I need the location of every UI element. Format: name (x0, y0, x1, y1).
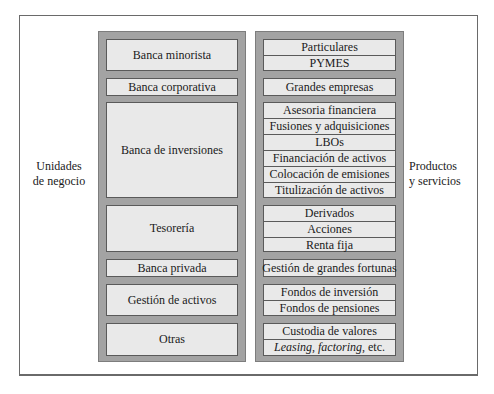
product-item: Fondos de pensiones (264, 300, 395, 316)
product-item: Gestión de grandes fortunas (264, 260, 395, 276)
products-column: Particulares PYMES Grandes empresas Ases… (255, 31, 404, 362)
product-item: Renta fija (264, 237, 395, 253)
product-item: Acciones (264, 221, 395, 237)
product-item: Custodia de valores (264, 324, 395, 339)
product-group-retail: Particulares PYMES (263, 39, 396, 71)
product-item: Colocación de emisiones (264, 166, 395, 182)
business-units-label: Unidades de negocio (20, 159, 98, 189)
unit-tesoreria: Tesorería (106, 205, 238, 252)
product-group-treasury: Derivados Acciones Renta fija (263, 205, 396, 252)
label-line: y servicios (409, 174, 479, 189)
etc-text: etc. (365, 340, 385, 355)
label-line: Unidades (20, 159, 98, 174)
product-group-asset-mgmt: Fondos de inversión Fondos de pensiones (263, 284, 396, 316)
product-item: Derivados (264, 206, 395, 221)
diagram-frame (19, 15, 478, 376)
unit-banca-minorista: Banca minorista (106, 39, 238, 71)
products-services-label: Productos y servicios (409, 159, 479, 189)
product-group-corporate: Grandes empresas (263, 78, 396, 96)
product-group-investment: Asesoria financiera Fusiones y adquisici… (263, 102, 396, 198)
product-item: Fondos de inversión (264, 285, 395, 300)
label-line: Productos (409, 159, 479, 174)
label-line: de negocio (20, 174, 98, 189)
product-item: Financiación de activos (264, 150, 395, 166)
product-group-other: Custodia de valores Leasing, factoring, … (263, 323, 396, 356)
product-item-leasing: Leasing, factoring, etc. (264, 339, 395, 355)
product-item: Grandes empresas (264, 79, 395, 95)
product-item: LBOs (264, 134, 395, 150)
product-item: Fusiones y adquisiciones (264, 118, 395, 134)
unit-banca-privada: Banca privada (106, 259, 238, 277)
business-units-column: Banca minorista Banca corporativa Banca … (98, 31, 246, 362)
unit-banca-inversiones: Banca de inversiones (106, 102, 238, 198)
product-item: Particulares (264, 40, 395, 55)
product-item: Asesoria financiera (264, 103, 395, 118)
unit-banca-corporativa: Banca corporativa (106, 78, 238, 96)
leasing-factoring-text: Leasing, factoring, (274, 340, 365, 355)
product-group-private: Gestión de grandes fortunas (263, 259, 396, 277)
product-item: Titulización de activos (264, 182, 395, 198)
unit-otras: Otras (106, 323, 238, 356)
product-item: PYMES (264, 55, 395, 71)
unit-gestion-activos: Gestión de activos (106, 284, 238, 316)
